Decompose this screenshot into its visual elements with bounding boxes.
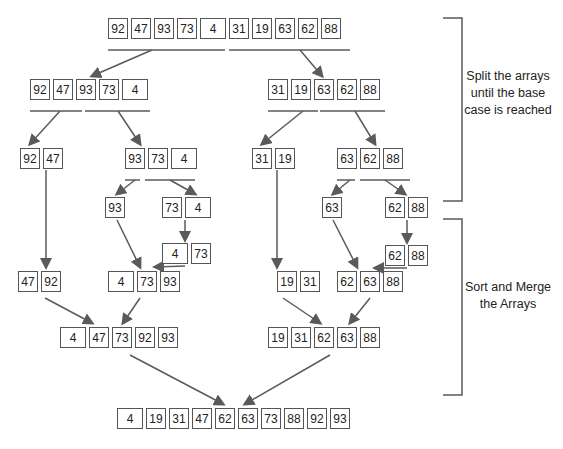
array-cell: 62 [337, 79, 357, 100]
array-cell: 88 [321, 18, 341, 39]
array-cell: 4 [200, 18, 226, 39]
array-cell: 92 [135, 327, 155, 348]
array-cell: 88 [408, 245, 428, 266]
array-cell: 88 [383, 271, 403, 292]
array-result: 4193147626373889293 [117, 408, 351, 429]
array-lr-sorted: 47393 [108, 271, 181, 292]
array-cell: 19 [277, 271, 297, 292]
array-cell: 31 [268, 79, 288, 100]
array-cell: 93 [125, 148, 145, 169]
array-cell: 63 [275, 18, 295, 39]
array-cell: 31 [169, 408, 189, 429]
merge-sort-diagram: 9247937343119636288924793734311963628892… [0, 0, 563, 449]
array-cell: 73 [162, 197, 182, 218]
array-cell: 63 [337, 327, 357, 348]
array-cell: 92 [108, 18, 128, 39]
array-rl: 3119 [252, 148, 296, 169]
array-cell: 31 [252, 148, 272, 169]
array-cell: 19 [275, 148, 295, 169]
array-cell: 47 [192, 408, 212, 429]
array-cell: 73 [177, 18, 197, 39]
array-rrr-sorted: 6288 [385, 245, 429, 266]
array-rr-sorted: 626388 [337, 271, 404, 292]
array-cell: 63 [337, 148, 357, 169]
array-cell: 88 [408, 197, 428, 218]
array-cell: 93 [105, 197, 125, 218]
array-cell: 88 [383, 148, 403, 169]
array-cell: 63 [314, 79, 334, 100]
array-l: 924793734 [30, 79, 149, 100]
array-cell: 93 [330, 408, 350, 429]
array-cell: 73 [99, 79, 119, 100]
array-cell: 88 [360, 79, 380, 100]
array-cell: 93 [76, 79, 96, 100]
array-root: 9247937343119636288 [108, 18, 342, 39]
array-cell: 73 [191, 243, 211, 264]
array-rl-sorted: 1931 [277, 271, 321, 292]
array-cell: 73 [112, 327, 132, 348]
array-cell: 19 [146, 408, 166, 429]
array-cell: 93 [154, 18, 174, 39]
array-cell: 62 [337, 271, 357, 292]
array-rrl: 63 [322, 197, 343, 218]
array-l-sorted: 447739293 [60, 327, 179, 348]
array-cell: 47 [89, 327, 109, 348]
array-cell: 63 [238, 408, 258, 429]
array-cell: 63 [360, 271, 380, 292]
array-cell: 93 [158, 327, 178, 348]
array-lrr: 734 [162, 197, 212, 218]
array-ll: 9247 [20, 148, 64, 169]
array-cell: 62 [215, 408, 235, 429]
array-cell: 62 [298, 18, 318, 39]
array-cell: 62 [360, 148, 380, 169]
array-ll-sorted: 4792 [18, 271, 62, 292]
array-cell: 92 [20, 148, 40, 169]
array-lr: 93734 [125, 148, 198, 169]
array-cell: 92 [30, 79, 50, 100]
split-annotation: Split the arrays until the base case is … [458, 68, 558, 119]
array-cell: 47 [53, 79, 73, 100]
array-r: 3119636288 [268, 79, 381, 100]
array-cell: 4 [108, 271, 134, 292]
array-cell: 62 [385, 245, 405, 266]
array-cell: 4 [60, 327, 86, 348]
array-lrl: 93 [105, 197, 126, 218]
array-cell: 73 [261, 408, 281, 429]
array-cell: 88 [360, 327, 380, 348]
array-cell: 19 [252, 18, 272, 39]
array-cell: 4 [171, 148, 197, 169]
array-rrr: 6288 [385, 197, 429, 218]
array-cell: 4 [122, 79, 148, 100]
array-rr: 636288 [337, 148, 404, 169]
array-cell: 92 [307, 408, 327, 429]
array-cell: 62 [314, 327, 334, 348]
array-cell: 88 [284, 408, 304, 429]
array-cell: 4 [162, 243, 188, 264]
array-cell: 4 [117, 408, 143, 429]
array-cell: 19 [268, 327, 288, 348]
array-r-sorted: 1931626388 [268, 327, 381, 348]
array-cell: 47 [131, 18, 151, 39]
array-cell: 31 [229, 18, 249, 39]
array-cell: 47 [43, 148, 63, 169]
array-lrr-sorted: 473 [162, 243, 212, 264]
array-cell: 4 [185, 197, 211, 218]
array-cell: 63 [322, 197, 342, 218]
array-cell: 62 [385, 197, 405, 218]
array-cell: 93 [160, 271, 180, 292]
array-cell: 92 [41, 271, 61, 292]
array-cell: 31 [300, 271, 320, 292]
array-cell: 31 [291, 327, 311, 348]
array-cell: 47 [18, 271, 38, 292]
array-cell: 19 [291, 79, 311, 100]
array-cell: 73 [137, 271, 157, 292]
merge-annotation: Sort and Merge the Arrays [458, 279, 558, 313]
array-cell: 73 [148, 148, 168, 169]
